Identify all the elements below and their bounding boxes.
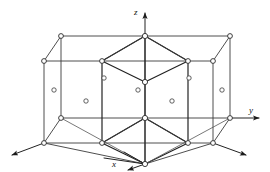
inner-hexagonal-prism [102,36,188,164]
interior-atom [102,76,106,80]
vertex-atom-top-back-right [228,34,233,39]
edge-top-hex-spoke-right [145,36,188,61]
vertex-atom-bottom-front-left [42,141,47,146]
vertex-atom-bottom-hex-right [186,141,191,146]
edge-depth-top-left [44,36,61,61]
edge-bottom-hex-spoke-right [145,118,188,143]
edge-base-tie-left [44,143,145,164]
edge-depth-bottom-left [44,118,61,143]
interior-atom [170,99,174,103]
edge-top-hex-spoke-left [102,36,145,61]
vertex-atom-bottom-center [142,115,147,120]
interior-atom [187,76,191,80]
interior-atom [136,88,140,92]
edge-top-hex-left-front [102,61,145,82]
interior-atom-group [52,76,224,103]
vertex-atom-top-hex-front [142,79,147,84]
edge-base-tie-right [145,143,213,164]
vertex-atom-bottom-back-right [228,116,233,121]
hcp-lattice-figure: Hexagonal close-packed crystal lattice u… [0,0,270,172]
lattice-diagram-canvas: Hexagonal close-packed crystal lattice u… [0,0,270,172]
vertex-atom-top-hex-left [100,59,105,64]
base-diagonal-ties [44,118,230,164]
edge-top-hex-right-front [145,61,188,82]
interior-atom [220,88,224,92]
edge-bottom-hex-spoke-left [102,118,145,143]
vertex-atom-bottom-hex-front [142,161,147,166]
vertex-atom-bottom-back-left [59,116,64,121]
edge-depth-bottom-right [213,118,230,143]
vertex-atom-bottom-front-right [211,141,216,146]
vertex-atom-top-center [142,33,147,38]
interior-atom [84,99,88,103]
axis-arrow-front-right [213,143,246,155]
interior-atom [52,88,56,92]
vertex-atom-top-front-right [211,59,216,64]
edge-depth-top-right [213,36,230,61]
axis-label-z: z [133,7,138,17]
vertex-atom-top-hex-right [186,59,191,64]
vertex-atom-top-front-left [42,59,47,64]
vertex-atom-bottom-hex-left [100,141,105,146]
vertex-atom-group [42,33,233,166]
axis-label-x: x [111,159,116,169]
axis-arrow-x-negative [12,143,44,155]
axis-label-y: y [248,105,253,115]
vertex-atom-top-back-left [59,34,64,39]
